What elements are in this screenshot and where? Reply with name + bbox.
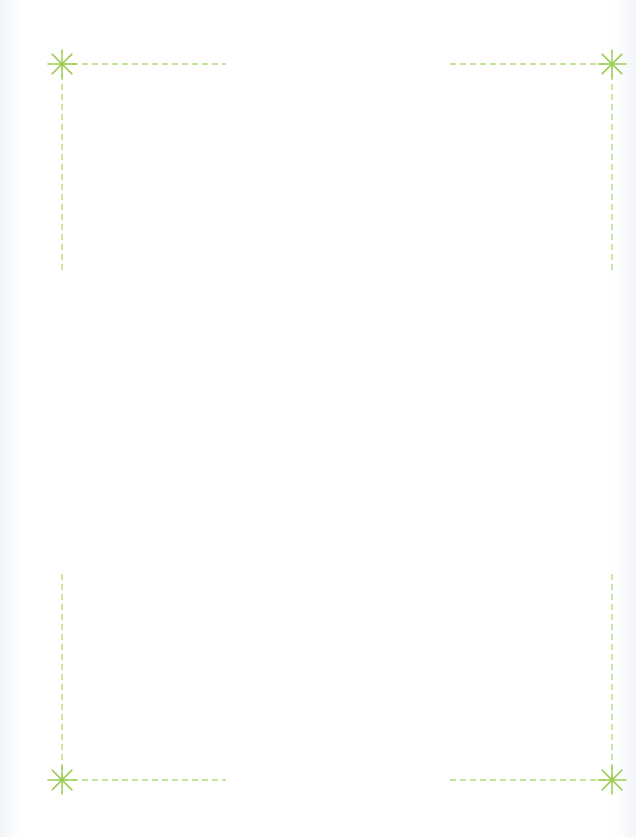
starburst-icon (48, 50, 76, 78)
blank-page (0, 0, 636, 837)
corner-mark-bottom-right (450, 574, 626, 794)
starburst-icon (598, 50, 626, 78)
starburst-icon (48, 766, 76, 794)
corner-mark-top-left (48, 50, 226, 272)
starburst-icon (598, 766, 626, 794)
corner-mark-bottom-left (48, 574, 226, 794)
corner-crop-marks (0, 0, 636, 837)
corner-mark-top-right (450, 50, 626, 272)
